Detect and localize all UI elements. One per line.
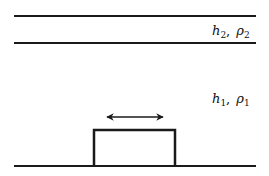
lower-layer-label: h1,ρ1 — [212, 92, 250, 108]
upper-layer-label: h2,ρ2 — [212, 24, 250, 40]
lower-density-symbol: ρ — [236, 91, 244, 106]
lower-separator: , — [226, 91, 230, 106]
lower-density-index: 1 — [244, 98, 250, 108]
upper-density-index: 2 — [244, 30, 250, 40]
upper-density-symbol: ρ — [236, 23, 244, 38]
upper-separator: , — [226, 23, 230, 38]
obstacle-box — [94, 130, 175, 166]
